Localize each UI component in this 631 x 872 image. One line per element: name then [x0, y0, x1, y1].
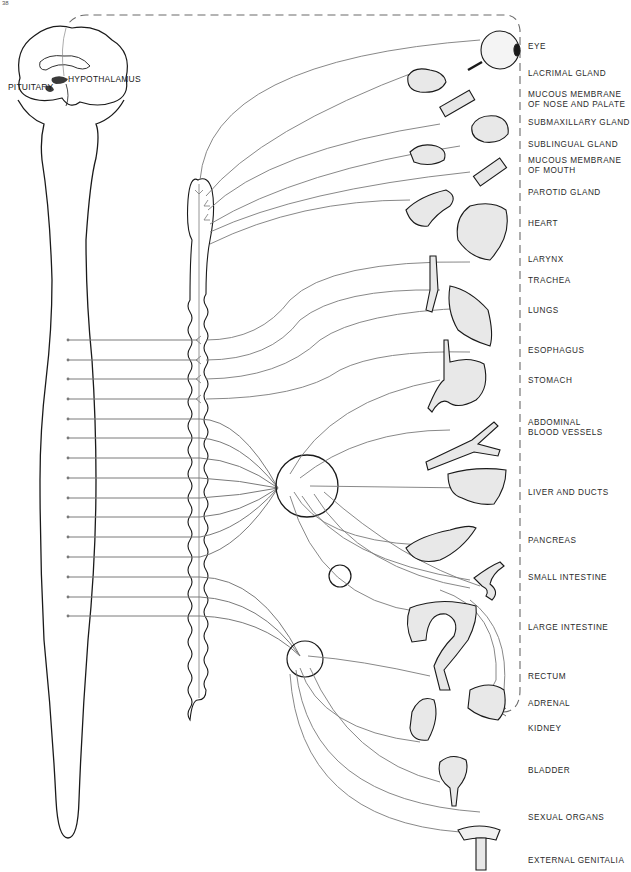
- hypothalamus-label: HYPOTHALAMUS: [68, 74, 141, 84]
- liver-illustration: [448, 469, 506, 505]
- autonomic-nervous-system-diagram: 38: [0, 0, 631, 872]
- lacrimal-gland-illustration: [408, 69, 446, 92]
- label-eye: EYE: [528, 42, 546, 52]
- label-submaxillary-gland: SUBMAXILLARY GLAND: [528, 118, 630, 128]
- label-rectum: RECTUM: [528, 672, 566, 682]
- large-intestine-illustration: [407, 601, 476, 690]
- spinal-cord-outline: [18, 100, 124, 838]
- postganglionic-fibers: [200, 40, 505, 832]
- pituitary-label: PITUITARY: [8, 82, 53, 92]
- label-larynx: LARYNX: [528, 255, 564, 265]
- kidney-illustration: [410, 699, 436, 741]
- mouth-membrane-illustration: [473, 158, 506, 186]
- sublingual-gland-illustration: [410, 145, 445, 165]
- brain: [19, 26, 128, 106]
- lungs-illustration: [449, 286, 492, 346]
- inferior-mesenteric-ganglion: [287, 641, 323, 677]
- label-large-intestine: LARGE INTESTINE: [528, 623, 608, 633]
- nose-membrane-illustration: [440, 90, 475, 117]
- stomach-illustration: [428, 340, 486, 412]
- label-trachea: TRACHEA: [528, 276, 571, 286]
- sympathetic-chain: [188, 179, 214, 720]
- label-parotid-gland: PAROTID GLAND: [528, 188, 601, 198]
- parotid-gland-illustration: [406, 190, 453, 226]
- abdominal-vessels-illustration: [426, 422, 500, 470]
- eye-illustration: [468, 31, 520, 70]
- label-esophagus: ESOPHAGUS: [528, 346, 584, 356]
- label-lungs: LUNGS: [528, 306, 559, 316]
- label-lacrimal-gland: LACRIMAL GLAND: [528, 69, 606, 79]
- label-adrenal: ADRENAL: [528, 699, 570, 709]
- page-number: 38: [2, 0, 9, 6]
- preganglionic-fibers: [68, 340, 300, 656]
- label-mucous-membrane-nose-palate: MUCOUS MEMBRANE OF NOSE AND PALATE: [528, 90, 625, 110]
- superior-mesenteric-ganglion: [329, 565, 351, 587]
- label-pancreas: PANCREAS: [528, 536, 576, 546]
- small-intestine-illustration: [474, 562, 504, 600]
- label-kidney: KIDNEY: [528, 724, 561, 734]
- submaxillary-gland-illustration: [472, 116, 509, 143]
- label-mucous-membrane-mouth: MUCOUS MEMBRANE OF MOUTH: [528, 156, 621, 176]
- label-small-intestine: SMALL INTESTINE: [528, 573, 607, 583]
- heart-illustration: [457, 204, 507, 260]
- pancreas-illustration: [406, 526, 476, 561]
- bladder-illustration: [439, 756, 467, 806]
- label-external-genitalia: EXTERNAL GENITALIA: [528, 856, 624, 866]
- label-bladder: BLADDER: [528, 766, 570, 776]
- label-stomach: STOMACH: [528, 376, 572, 386]
- label-sublingual-gland: SUBLINGUAL GLAND: [528, 140, 618, 150]
- label-sexual-organs: SEXUAL ORGANS: [528, 813, 604, 823]
- label-abdominal-blood-vessels: ABDOMINAL BLOOD VESSELS: [528, 418, 603, 438]
- label-liver-and-ducts: LIVER AND DUCTS: [528, 488, 609, 498]
- label-heart: HEART: [528, 219, 558, 229]
- larynx-trachea-illustration: [426, 256, 438, 312]
- external-genitalia-illustration: [476, 838, 486, 870]
- adrenal-illustration: [468, 685, 505, 720]
- organ-illustrations: [406, 31, 520, 870]
